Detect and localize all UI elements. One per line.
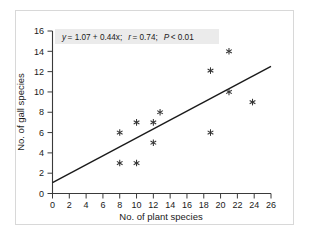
y-tick-label: 2 [39,168,44,178]
x-tick-label: 10 [132,200,142,210]
x-tick-label: 2 [67,200,72,210]
data-point [134,119,140,126]
scatter-plot: y= 1.07 + 0.44x;r= 0.74;P< 0.01 02468101… [0,0,309,237]
annotation-p-value: < 0.01 [171,33,194,42]
data-point [157,109,163,116]
y-tick-label: 4 [39,148,44,158]
y-tick-label: 10 [34,87,44,97]
data-point [226,48,232,55]
data-point [117,129,123,136]
data-point [134,160,140,167]
y-tick-label: 14 [34,47,44,57]
x-tick-label: 20 [216,200,226,210]
annotation-text: y= 1.07 + 0.44x;r= 0.74;P< 0.01 [61,33,194,42]
x-tick-label: 14 [165,200,175,210]
y-axis-title: No. of gall species [15,73,26,151]
regression-line [53,66,272,182]
x-tick-label: 22 [232,200,242,210]
y-tick-label: 8 [39,107,44,117]
data-point [208,67,214,74]
y-tick-label: 0 [39,189,44,199]
x-axis-title: No. of plant species [119,211,203,222]
annotation-p-symbol: P [164,33,170,42]
data-point [117,160,123,167]
data-point [150,119,156,126]
annotation-r-symbol: r [128,33,131,42]
x-tick-label: 8 [117,200,122,210]
y-tick-label: 16 [34,26,44,36]
x-axis-ticks: 02468101214161820222426 [50,194,276,211]
x-tick-label: 4 [84,200,89,210]
figure-root: y= 1.07 + 0.44x;r= 0.74;P< 0.01 02468101… [0,0,309,237]
x-tick-label: 6 [100,200,105,210]
annotation-r-value: = 0.74; [132,33,157,42]
data-point [250,99,256,106]
x-tick-label: 16 [182,200,192,210]
x-tick-label: 12 [148,200,158,210]
y-axis-ticks: 0246810121416 [34,26,53,199]
data-point [208,129,214,136]
data-point [150,139,156,146]
y-tick-label: 12 [34,67,44,77]
data-point-group [117,48,255,166]
annotation-equation-rest: = 1.07 + 0.44x; [68,33,123,42]
x-tick-label: 0 [50,200,55,210]
x-tick-label: 26 [266,200,276,210]
y-tick-label: 6 [39,128,44,138]
x-tick-label: 18 [199,200,209,210]
x-tick-label: 24 [249,200,259,210]
